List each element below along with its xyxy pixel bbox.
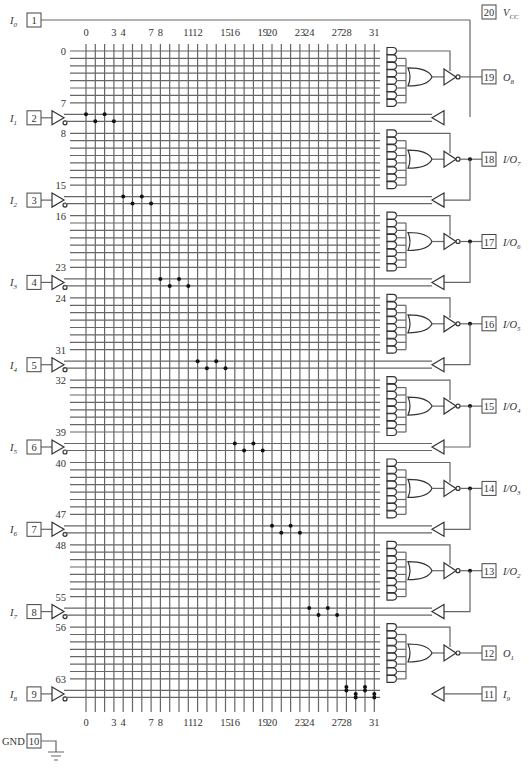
and-gate-icon — [387, 227, 397, 234]
output-pin-19: 19 — [482, 70, 496, 84]
connection-dot — [326, 606, 330, 610]
and-gate-icon — [387, 317, 397, 324]
output-buffer-icon — [444, 563, 456, 579]
enable-line — [396, 298, 450, 318]
and-gate-icon — [387, 145, 397, 152]
and-gate-icon — [387, 174, 397, 181]
output-buffer-icon — [444, 316, 456, 332]
connection-dot — [335, 613, 339, 617]
input-pin-9: 9 — [27, 687, 41, 701]
and-gate-icon — [387, 55, 396, 62]
input-buffers — [41, 20, 470, 701]
output-pin-12: 12 — [482, 646, 496, 660]
and-gate-icon — [387, 167, 397, 174]
and-gate-icon — [387, 152, 397, 159]
output-pin-18: 18 — [482, 152, 496, 166]
connection-dot — [93, 119, 97, 123]
row-label: 63 — [56, 674, 67, 685]
output-label: I/O6 — [502, 237, 521, 251]
connection-dot — [363, 688, 367, 692]
row-label: 0 — [61, 46, 66, 57]
connection-dot — [233, 442, 237, 446]
and-gate-icon — [387, 556, 397, 563]
and-gate-icon — [387, 541, 397, 548]
connection-dot — [149, 202, 153, 206]
column-label-top: 0 — [83, 27, 88, 38]
column-label-bottom: 12 — [192, 717, 203, 728]
feedback-buffer-icon — [432, 111, 444, 125]
or-gate-icon — [408, 397, 432, 415]
and-gate-icon — [387, 294, 397, 301]
pin-number: 5 — [31, 360, 36, 371]
column-label-bottom: 8 — [158, 717, 163, 728]
column-label-top: 31 — [369, 27, 380, 38]
pin-number: 13 — [484, 566, 495, 577]
pin-number: 15 — [484, 401, 495, 412]
column-label-top: 8 — [158, 27, 163, 38]
and-gate-icon — [387, 99, 397, 106]
pin-number: 20 — [484, 7, 495, 18]
pin-number: 8 — [31, 607, 36, 618]
connection-dot — [112, 119, 116, 123]
input-label: I3 — [9, 277, 18, 291]
and-gate-icon — [387, 399, 397, 406]
and-gate-icon — [387, 331, 397, 338]
pin-number: 17 — [484, 237, 495, 248]
and-gate-icon — [387, 496, 397, 503]
connection-dot — [168, 284, 172, 288]
row-label: 15 — [56, 180, 67, 191]
column-label-bottom: 0 — [83, 717, 88, 728]
feedback-buffer-icon — [432, 358, 444, 372]
and-gate-icon — [387, 593, 397, 600]
column-label-bottom: 7 — [148, 717, 153, 728]
input-buffer-icon — [52, 358, 64, 372]
and-gate-icon — [387, 392, 397, 399]
and-array-grid — [70, 44, 380, 712]
feedback-wire — [444, 159, 470, 200]
pin-number: 2 — [31, 113, 36, 124]
and-gate-icon — [387, 675, 397, 682]
connection-dot — [270, 524, 274, 528]
pin-number: 4 — [31, 277, 37, 288]
and-gate-icon — [387, 503, 397, 510]
and-gate-icon — [387, 85, 397, 92]
feedback-wire — [444, 406, 470, 447]
input-pin-7: 7 — [27, 522, 41, 536]
pal-logic-diagram: 0033447788111112121515161619192020232324… — [0, 0, 529, 772]
input-label: I7 — [9, 607, 18, 621]
connection-dot — [140, 195, 144, 199]
connection-dot — [242, 449, 246, 453]
and-gate-icon — [387, 481, 397, 488]
input-label: I9 — [502, 689, 511, 703]
row-label: 23 — [56, 262, 67, 273]
inverter-bubble-icon — [456, 157, 460, 161]
and-gate-icon — [387, 653, 397, 660]
or-gate-icon — [408, 562, 432, 580]
pin-number: 1 — [31, 15, 36, 26]
or-gate-icon — [408, 479, 432, 497]
and-gate-icon — [387, 586, 397, 593]
connection-dot — [261, 449, 265, 453]
column-label-top: 16 — [230, 27, 241, 38]
inverter-bubble-icon — [456, 75, 460, 79]
output-pin-17: 17 — [482, 235, 496, 249]
output-label: I/O3 — [502, 483, 521, 497]
output-buffer-icon — [444, 234, 456, 250]
and-gate-icon — [387, 130, 397, 137]
output-macrocells — [380, 48, 482, 701]
feedback-buffer-icon — [432, 275, 444, 289]
and-gate-icon — [387, 564, 397, 571]
connection-dot — [344, 688, 348, 692]
and-gate-icon — [387, 309, 397, 316]
and-gate-icon — [387, 466, 397, 473]
and-gate-icon — [387, 182, 397, 189]
input-label: I1 — [9, 113, 17, 127]
and-gate-icon — [387, 62, 397, 69]
input-pin-3: 3 — [27, 193, 41, 207]
connection-dot — [372, 695, 376, 699]
and-gate-icon — [387, 646, 397, 653]
and-gate-icon — [387, 48, 397, 55]
and-gate-icon — [387, 234, 397, 241]
and-gate-icon — [387, 384, 397, 391]
column-label-top: 28 — [341, 27, 352, 38]
